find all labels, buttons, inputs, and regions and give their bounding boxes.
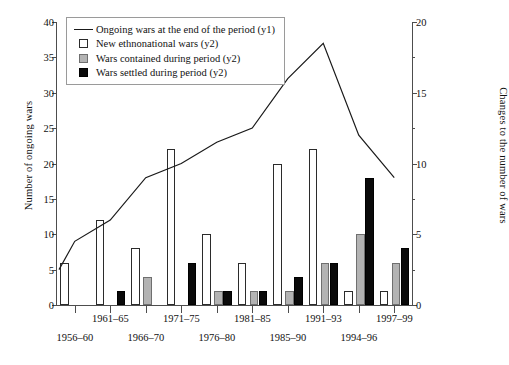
y-axis-left-tick-label: 40 [44,17,55,28]
legend-item-new: New ethnonational wars (y2) [73,37,275,52]
gray-square-swatch-icon [73,54,94,63]
legend-label: Wars settled during period (y2) [94,67,227,78]
x-axis-tick-label: 1991–93 [305,313,342,324]
x-axis-tick [252,305,253,313]
y-axis-right-tick-label: 10 [416,158,427,169]
x-axis-tick [181,305,182,313]
x-axis-tick [110,305,111,313]
x-axis-tick-label: 1985–90 [269,332,306,343]
y-axis-left-tick-label: 20 [44,158,55,169]
line-swatch-icon [73,29,94,30]
y-axis-left-tick-label: 30 [44,87,55,98]
white-square-swatch-icon [73,39,94,48]
x-axis-tick-label: 1981–85 [234,313,271,324]
x-axis-tick [288,305,289,313]
legend-item-settled: Wars settled during period (y2) [73,66,275,81]
x-axis-tick [146,305,147,313]
x-axis-tick [394,305,395,313]
y-axis-left-tick-label: 0 [49,300,54,311]
x-axis-tick-label: 1971–75 [163,313,200,324]
y-axis-left-tick-label: 10 [44,229,55,240]
x-axis-tick-label: 1994–96 [340,332,377,343]
legend-label: Ongoing wars at the end of the period (y… [94,24,275,35]
x-axis-tick [323,305,324,313]
y-axis-right-tick-label: 15 [416,87,427,98]
legend-label: Wars contained during period (y2) [94,53,240,64]
x-axis-tick-label: 1966–70 [127,332,164,343]
y-axis-right-minor-tick [412,199,415,200]
x-axis-tick-label: 1961–65 [92,313,129,324]
y-axis-right-minor-tick [412,128,415,129]
y-axis-right-minor-tick [412,57,415,58]
y-axis-right-tick-label: 0 [416,300,421,311]
x-axis-tick-label: 1997–99 [376,313,413,324]
y-axis-right-title: Changes to the number of wars [498,61,509,251]
y-axis-left-tick-label: 25 [44,123,55,134]
x-axis-labels: 1956–601961–651966–701971–751976–801981–… [0,313,498,365]
x-axis-tick [217,305,218,313]
y-axis-left-tick-label: 5 [49,264,54,275]
legend-label: New ethnonational wars (y2) [94,38,218,49]
x-axis-tick [359,305,360,313]
chart-legend: Ongoing wars at the end of the period (y… [66,17,285,85]
y-axis-left-title: Number of ongoing wars [23,66,34,246]
black-square-swatch-icon [73,68,94,77]
y-axis-right-tick-label: 20 [416,17,427,28]
y-axis-left-tick-label: 15 [44,193,55,204]
legend-item-contained: Wars contained during period (y2) [73,51,275,66]
legend-item-ongoing: Ongoing wars at the end of the period (y… [73,22,275,37]
x-axis-tick-label: 1976–80 [198,332,235,343]
x-axis-tick-label: 1956–60 [56,332,93,343]
y-axis-right-minor-tick [412,270,415,271]
x-axis-tick [75,305,76,313]
y-axis-right-tick-label: 5 [416,229,421,240]
y-axis-left-tick-label: 35 [44,52,55,63]
